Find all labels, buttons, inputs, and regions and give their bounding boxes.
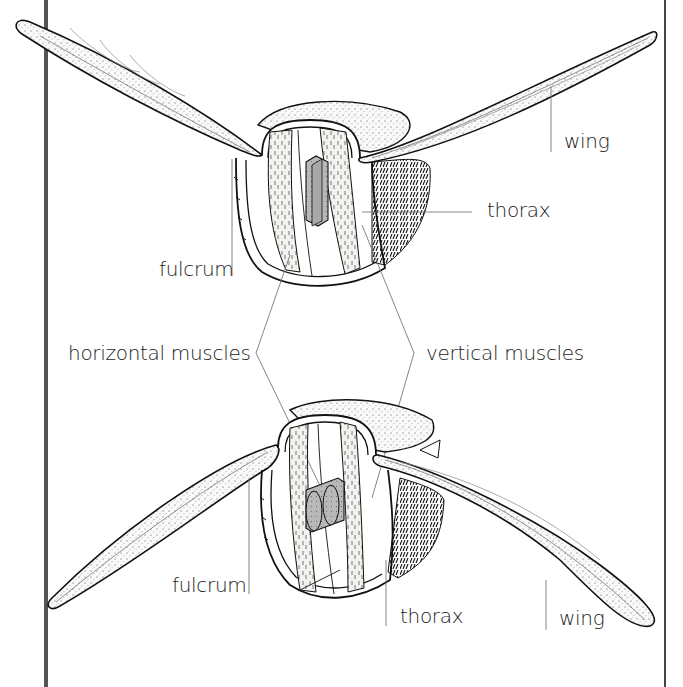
upper-thorax-label: thorax	[487, 200, 550, 220]
upper-wing-label: wing	[564, 131, 609, 151]
lower-thorax-hair	[388, 478, 444, 578]
upper-figure	[16, 20, 657, 285]
upper-fulcrum-label: fulcrum	[159, 259, 234, 279]
upper-right-wing	[359, 32, 657, 163]
lower-thorax-label: thorax	[400, 606, 463, 626]
horizontal-muscles-label: horizontal muscles	[68, 343, 251, 363]
muscle-leader-lines	[256, 225, 414, 498]
lower-wing-label: wing	[559, 608, 604, 628]
lower-fulcrum-label: fulcrum	[172, 575, 247, 595]
lower-figure	[48, 400, 654, 627]
vertical-muscles-label: vertical muscles	[426, 343, 584, 363]
upper-left-wing	[16, 20, 262, 156]
